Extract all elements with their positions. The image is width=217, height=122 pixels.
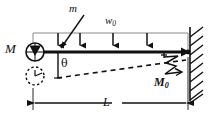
label-mass-m: m xyxy=(69,3,77,14)
label-mass-M: M xyxy=(5,42,16,55)
label-M0-base: M xyxy=(154,75,165,89)
label-angle-theta: θ xyxy=(61,58,68,69)
beam-diagram-figure: M m w0 θ M0 L xyxy=(0,0,217,122)
label-w0-subscript: 0 xyxy=(112,19,116,28)
displaced-mass-circle-dashed xyxy=(26,67,44,85)
distributed-load-box xyxy=(33,33,188,51)
label-distributed-load-w0: w0 xyxy=(105,15,116,28)
distributed-load-arrows xyxy=(58,33,147,46)
right-pin-support xyxy=(181,48,190,57)
left-support-mass-circle xyxy=(26,43,44,61)
label-length-L: L xyxy=(103,96,110,108)
label-M0-subscript: 0 xyxy=(165,81,169,90)
fixed-wall-hatching xyxy=(190,27,203,101)
applied-moment-arrow xyxy=(161,53,182,76)
label-moment-M0: M0 xyxy=(154,76,169,90)
